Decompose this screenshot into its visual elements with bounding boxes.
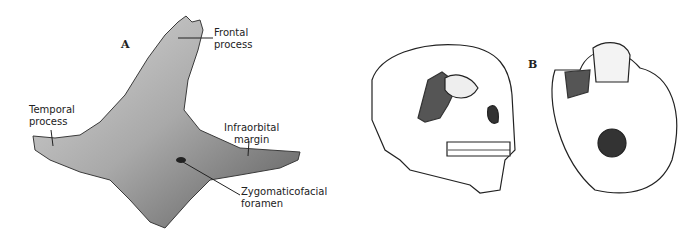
label-zygomaticofacial-foramen: Zygomaticofacial foramen (241, 186, 327, 210)
label-infraorbital-margin: Infraorbital margin (224, 122, 279, 146)
skull-inferior-illustration (552, 43, 677, 193)
panel-a-letter: A (121, 38, 130, 51)
skull-lateral-illustration (372, 45, 515, 193)
panel-b-letter: B (528, 58, 537, 71)
figure-canvas (0, 0, 696, 235)
label-temporal-process: Temporal process (29, 104, 75, 128)
label-frontal-process: Frontal process (214, 27, 252, 51)
